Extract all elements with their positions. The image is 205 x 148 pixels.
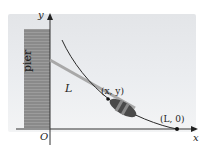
x-axis-label: x: [193, 133, 199, 143]
y-axis-arrow-icon: [47, 13, 53, 20]
pier-label: pier: [22, 50, 33, 72]
point-end: [175, 127, 179, 131]
pier: [24, 29, 50, 128]
point-end-label: (L, 0): [160, 115, 184, 124]
point-boat: [106, 97, 110, 101]
origin-label: O: [40, 132, 48, 142]
point-boat-label: (x, y): [101, 87, 124, 96]
rope-label: L: [65, 83, 72, 94]
y-axis-label: y: [38, 10, 44, 20]
tractrix-diagram: [0, 0, 205, 148]
